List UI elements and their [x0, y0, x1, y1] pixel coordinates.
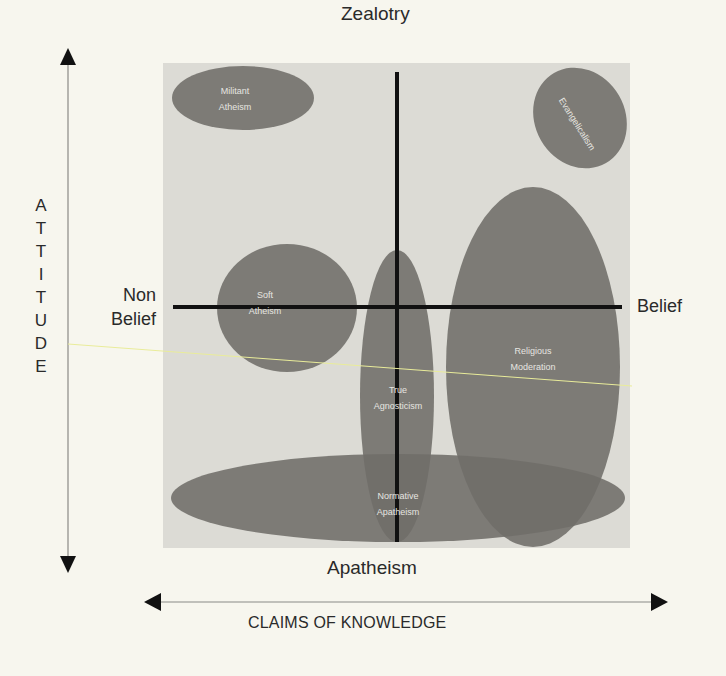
arrow-up-icon	[60, 48, 76, 65]
region-label-line: Apatheism	[365, 504, 431, 520]
region-label-normative-apatheism: Normative Apatheism	[365, 488, 431, 520]
arrow-right-icon	[651, 593, 668, 611]
apatheism-label: Apatheism	[327, 557, 417, 579]
region-label-line: Moderation	[488, 359, 578, 375]
region-label-line: Agnosticism	[365, 398, 431, 414]
region-label-true-agnosticism: True Agnosticism	[365, 382, 431, 414]
belief-label: Belief	[637, 296, 682, 317]
region-label-line: Soft	[235, 287, 295, 303]
y-axis-letter: A	[30, 194, 52, 217]
y-axis-letter: T	[30, 286, 52, 309]
region-label-soft-atheism: Soft Atheism	[235, 287, 295, 319]
region-label-religious-moderation: Religious Moderation	[488, 343, 578, 375]
region-label-line: Religious	[488, 343, 578, 359]
non-belief-line2: Belief	[98, 307, 156, 331]
region-label-line: True	[365, 382, 431, 398]
arrow-down-icon	[60, 556, 76, 573]
y-axis-title: A T T I T U D E	[30, 194, 52, 378]
y-axis-letter: D	[30, 332, 52, 355]
y-axis-letter: E	[30, 355, 52, 378]
region-label-militant-atheism: Militant Atheism	[210, 83, 260, 115]
y-axis-letter: I	[30, 263, 52, 286]
x-axis-title: CLAIMS OF KNOWLEDGE	[248, 614, 447, 632]
region-label-line: Atheism	[235, 303, 295, 319]
region-label-line: Militant	[210, 83, 260, 99]
region-label-line: Atheism	[210, 99, 260, 115]
y-axis-letter: T	[30, 240, 52, 263]
region-label-line: Normative	[365, 488, 431, 504]
diagram-canvas: Zealotry Apatheism Non Belief Belief CLA…	[0, 0, 726, 676]
arrow-left-icon	[144, 593, 161, 611]
y-axis-letter: T	[30, 217, 52, 240]
zealotry-label: Zealotry	[341, 3, 410, 25]
non-belief-label: Non Belief	[98, 283, 156, 331]
y-axis-letter: U	[30, 309, 52, 332]
non-belief-line1: Non	[98, 283, 156, 307]
